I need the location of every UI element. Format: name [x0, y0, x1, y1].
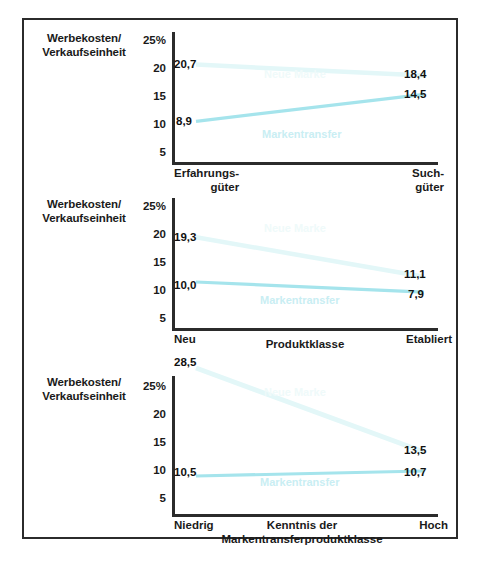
series-caption-neue-marke-1: Neue Marke — [264, 68, 326, 80]
x-tick-1-right-line1: Such- — [412, 167, 444, 181]
y-tick-2-0: 25% — [132, 200, 166, 212]
x-tick-label-1-right: Such- güter — [412, 167, 444, 194]
x-axis-title-3: Kenntnis der Markentransferproduktklasse — [152, 519, 452, 546]
x-tick-2-right-line1: Etabliert — [406, 333, 452, 347]
x-tick-label-2-right: Etabliert — [406, 333, 452, 347]
value-label-3-neue-right: 13,5 — [404, 444, 426, 456]
value-label-2-neue-left: 19,3 — [174, 231, 196, 243]
value-label-1-neue-right: 18,4 — [404, 68, 426, 80]
y-tick-2-3: 10 — [132, 284, 166, 296]
value-label-3-neue-left: 28,5 — [174, 356, 196, 368]
y-axis-title-2-line2: Verkaufseinheit — [28, 212, 140, 226]
plot-lines-1 — [172, 32, 438, 164]
y-tick-3-4: 5 — [132, 492, 166, 504]
y-tick-2-1: 20 — [132, 228, 166, 240]
series-line-neue-marke-2 — [196, 237, 424, 276]
value-label-1-mt-left: 8,9 — [176, 115, 192, 127]
value-label-1-neue-left: 20,7 — [174, 58, 196, 70]
y-tick-1-4: 5 — [132, 146, 166, 158]
y-axis-title-2-line1: Werbekosten/ — [28, 198, 140, 212]
x-tick-1-left-line1: Erfahrungs- — [174, 167, 239, 181]
value-label-2-mt-right: 7,9 — [408, 288, 424, 300]
x-tick-label-1-left: Erfahrungs- güter — [174, 167, 239, 194]
y-tick-2-4: 5 — [132, 312, 166, 324]
value-label-2-neue-right: 11,1 — [404, 268, 426, 280]
y-axis-title-line1: Werbekosten/ — [28, 32, 140, 46]
x-axis-title-2: Produktklasse — [172, 338, 438, 352]
y-axis-title-3-line1: Werbekosten/ — [28, 376, 140, 390]
x-tick-label-3-right: Hoch — [419, 519, 448, 533]
value-label-2-mt-left: 10,0 — [174, 279, 196, 291]
chart-panel-3: Werbekosten/ Verkaufseinheit 25% 20 15 1… — [24, 352, 460, 541]
plot-lines-2 — [172, 198, 438, 330]
y-tick-3-2: 15 — [132, 436, 166, 448]
chart-panel-2: Werbekosten/ Verkaufseinheit 25% 20 15 1… — [24, 192, 460, 352]
x-tick-3-right-line1: Hoch — [419, 519, 448, 533]
y-axis-title-3-line2: Verkaufseinheit — [28, 390, 140, 404]
series-line-markentransfer-1 — [196, 94, 424, 121]
series-caption-markentransfer-2: Markentransfer — [260, 294, 339, 306]
y-axis-title-line2: Verkaufseinheit — [28, 46, 140, 60]
series-caption-neue-marke-3: Neue Marke — [264, 386, 326, 398]
y-axis-title-2: Werbekosten/ Verkaufseinheit — [28, 198, 140, 225]
y-tick-2-2: 15 — [132, 256, 166, 268]
x-axis-title-3-line2: Markentransferproduktklasse — [152, 533, 452, 547]
value-label-3-mt-left: 10,5 — [174, 466, 196, 478]
y-tick-1-0: 25% — [132, 34, 166, 46]
series-line-markentransfer-2 — [196, 282, 424, 292]
y-tick-1-1: 20 — [132, 62, 166, 74]
y-tick-1-2: 15 — [132, 90, 166, 102]
y-tick-3-1: 20 — [132, 408, 166, 420]
y-tick-3-3: 10 — [132, 464, 166, 476]
y-axis-title-3: Werbekosten/ Verkaufseinheit — [28, 376, 140, 403]
plot-lines-3 — [172, 358, 438, 516]
value-label-1-mt-right: 14,5 — [404, 88, 426, 100]
y-tick-3-0: 25% — [132, 380, 166, 392]
y-axis-title-1: Werbekosten/ Verkaufseinheit — [28, 32, 140, 59]
series-caption-neue-marke-2: Neue Marke — [264, 222, 326, 234]
series-caption-markentransfer-1: Markentransfer — [262, 128, 341, 140]
series-caption-markentransfer-3: Markentransfer — [260, 476, 339, 488]
figure-frame: Werbekosten/ Verkaufseinheit 25% 20 15 1… — [22, 18, 458, 539]
series-line-neue-marke-3 — [196, 368, 424, 452]
x-axis-title-3-line1: Kenntnis der — [152, 519, 452, 533]
value-label-3-mt-right: 10,7 — [404, 466, 426, 478]
chart-panel-1: Werbekosten/ Verkaufseinheit 25% 20 15 1… — [24, 20, 460, 190]
y-tick-1-3: 10 — [132, 118, 166, 130]
